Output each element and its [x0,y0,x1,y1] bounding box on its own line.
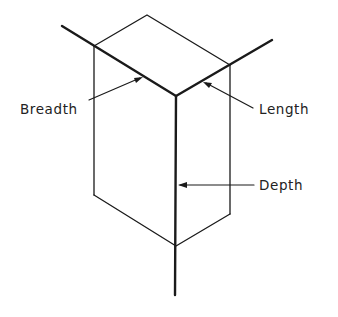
breadth-label: Breadth [20,101,78,117]
bottom-edges [94,195,230,246]
length-arrowhead-icon [203,82,212,88]
isometric-box-diagram: Breadth Length Depth [0,0,338,317]
breadth-arrowhead-icon [134,77,143,83]
depth-label: Depth [259,177,303,193]
breadth-axis-line [62,26,176,96]
depth-axis-line [175,96,176,295]
length-axis-line [176,40,272,96]
breadth-leader [89,78,140,100]
length-label: Length [259,101,309,117]
box-drawing [0,0,338,317]
depth-arrowhead-icon [178,182,187,188]
